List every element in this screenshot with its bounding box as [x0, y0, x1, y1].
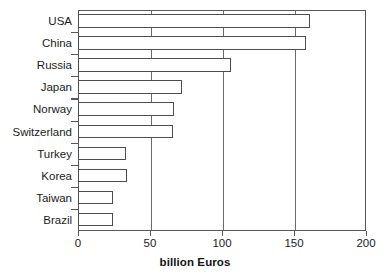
category-label-japan: Japan: [41, 76, 72, 98]
bar-row: [78, 98, 366, 120]
bar-korea: [78, 169, 127, 183]
bar-row: [78, 10, 366, 32]
bar-row: [78, 209, 366, 231]
bar-row: [78, 143, 366, 165]
x-tick-label-50: 50: [144, 237, 157, 249]
bar-china: [78, 36, 306, 50]
category-label-norway: Norway: [33, 98, 72, 120]
category-label-korea: Korea: [41, 165, 72, 187]
category-axis: USAChinaRussiaJapanNorwaySwitzerlandTurk…: [0, 10, 76, 231]
category-label-china: China: [42, 32, 72, 54]
x-tick-150: [294, 231, 295, 236]
bar-row: [78, 187, 366, 209]
category-label-usa: USA: [48, 10, 72, 32]
category-tick: [71, 76, 78, 77]
bar-brazil: [78, 213, 113, 227]
x-tick-200: [366, 231, 367, 236]
category-label-turkey: Turkey: [37, 143, 72, 165]
bar-row: [78, 76, 366, 98]
bar-turkey: [78, 147, 126, 161]
x-tick-100: [222, 231, 223, 236]
bars-layer: [78, 10, 366, 231]
x-tick-50: [150, 231, 151, 236]
category-label-taiwan: Taiwan: [36, 187, 72, 209]
category-tick: [71, 143, 78, 144]
bar-taiwan: [78, 191, 113, 205]
category-tick: [71, 165, 78, 166]
bar-usa: [78, 14, 310, 28]
bar-chart: USAChinaRussiaJapanNorwaySwitzerlandTurk…: [0, 0, 390, 276]
x-tick-label-100: 100: [212, 237, 231, 249]
x-axis-title: billion Euros: [0, 256, 390, 268]
category-tick: [71, 121, 78, 122]
bar-norway: [78, 102, 174, 116]
category-label-brazil: Brazil: [43, 209, 72, 231]
bar-switzerland: [78, 125, 173, 139]
category-tick: [71, 98, 78, 99]
category-tick: [71, 54, 78, 55]
x-tick-label-0: 0: [75, 237, 81, 249]
bar-row: [78, 32, 366, 54]
x-tick-0: [78, 231, 79, 236]
bar-russia: [78, 58, 231, 72]
bar-row: [78, 165, 366, 187]
category-tick: [71, 187, 78, 188]
x-tick-label-200: 200: [356, 237, 375, 249]
bar-row: [78, 54, 366, 76]
category-label-russia: Russia: [37, 54, 72, 76]
category-tick: [71, 32, 78, 33]
bar-japan: [78, 80, 182, 94]
x-tick-label-150: 150: [284, 237, 303, 249]
bar-row: [78, 121, 366, 143]
category-label-switzerland: Switzerland: [13, 121, 72, 143]
category-tick: [71, 209, 78, 210]
